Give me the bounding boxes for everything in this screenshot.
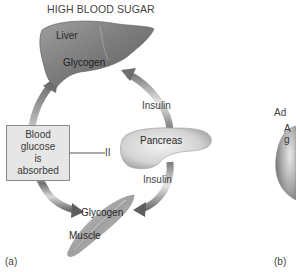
- muscle-glycogen-label: Glycogen: [81, 208, 123, 218]
- panel-b-label: (b): [274, 257, 286, 267]
- inhibitor-symbol: II: [105, 148, 111, 158]
- panel-b-partial-text: Ad: [274, 108, 286, 118]
- panel-b-partial-text: g: [284, 135, 290, 145]
- diagram-title: HIGH BLOOD SUGAR: [47, 4, 155, 15]
- arrow-to-muscle-left: [42, 183, 84, 218]
- panel-a-label: (a): [5, 257, 17, 267]
- blood-glucose-box: Blood glucose is absorbed: [6, 125, 70, 181]
- panel-b-partial-text: A: [284, 124, 291, 134]
- muscle-label: Muscle: [69, 231, 101, 241]
- muscle-organ: [68, 195, 134, 257]
- pancreas-organ: [121, 128, 212, 169]
- arrow-insulin-to-muscle: [133, 162, 170, 217]
- insulin-label-upper: Insulin: [142, 101, 171, 111]
- liver-glycogen-label: Glycogen: [63, 58, 105, 68]
- diagram: HIGH BLOOD SUGAR Liver Glycogen Insulin …: [0, 0, 296, 272]
- box-line: is: [34, 153, 41, 165]
- insulin-label-lower: Insulin: [143, 175, 172, 185]
- pancreas-label: Pancreas: [140, 136, 182, 146]
- box-line: Blood: [25, 129, 51, 141]
- box-line: glucose: [21, 141, 55, 153]
- box-line: absorbed: [17, 165, 59, 177]
- liver-label: Liver: [56, 31, 78, 41]
